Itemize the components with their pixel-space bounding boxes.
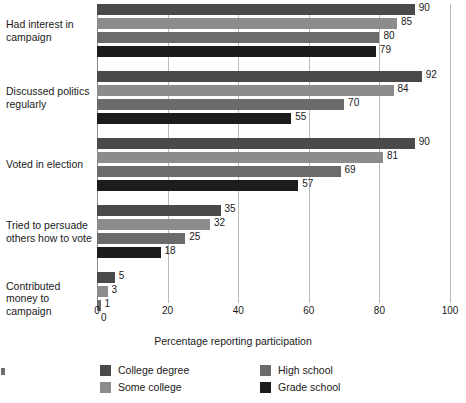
bar-row: 90 [97, 138, 450, 149]
bar-group: 90858079 [97, 4, 450, 57]
category-label-line: Discussed politics [6, 85, 94, 98]
bar [97, 46, 376, 57]
category-label: Tried to persuadeothers how to vote [6, 219, 94, 244]
bar-row: 32 [97, 219, 450, 230]
bar-value-label: 81 [387, 150, 398, 161]
bar-value-label: 90 [419, 2, 430, 13]
bar-value-label: 70 [348, 97, 359, 108]
bar-row: 81 [97, 152, 450, 163]
bar [97, 113, 291, 124]
category-label: Had interest incampaign [6, 18, 94, 43]
bar-value-label: 35 [225, 203, 236, 214]
bar-value-label: 55 [295, 111, 306, 122]
bar [97, 152, 383, 163]
scan-edge-artifact [1, 368, 5, 375]
bar-value-label: 3 [112, 284, 118, 295]
x-tick-label: 20 [162, 305, 173, 317]
bar-group: 35322518 [97, 205, 450, 258]
bar-value-label: 92 [426, 69, 437, 80]
legend-item: High school [260, 364, 333, 376]
bar [97, 71, 422, 82]
bar-row: 35 [97, 205, 450, 216]
bar-row: 70 [97, 99, 450, 110]
bar-value-label: 79 [380, 44, 391, 55]
legend-item: Grade school [260, 381, 340, 393]
x-tick-label: 0 [94, 305, 100, 317]
bar-row: 90 [97, 4, 450, 15]
x-tick-label: 100 [442, 305, 459, 317]
legend-swatch [260, 365, 271, 376]
chart-legend: College degreeSome collegeHigh schoolGra… [100, 364, 430, 396]
category-label-line: Contributed [6, 280, 94, 293]
bar-row: 69 [97, 166, 450, 177]
bar-row: 85 [97, 18, 450, 29]
bar-row: 57 [97, 180, 450, 191]
bar-value-label: 5 [119, 270, 125, 281]
bar-row: 3 [97, 286, 450, 297]
gridline-100 [450, 4, 451, 303]
bar-value-label: 90 [419, 136, 430, 147]
legend-item: Some college [100, 381, 182, 393]
bar-chart: Had interest incampaignDiscussed politic… [0, 0, 466, 403]
category-label: Contributedmoney tocampaign [6, 280, 94, 318]
bar-groups: 908580799284705590816957353225185310 [97, 4, 450, 303]
legend-swatch [100, 382, 111, 393]
category-label-line: campaign [6, 305, 94, 318]
category-label-line: others how to vote [6, 232, 94, 245]
bar-row: 55 [97, 113, 450, 124]
bar [97, 166, 341, 177]
category-label-line: Voted in election [6, 158, 94, 171]
legend-item: College degree [100, 364, 189, 376]
category-label-line: campaign [6, 31, 94, 44]
legend-swatch [100, 365, 111, 376]
category-axis: Had interest incampaignDiscussed politic… [0, 4, 92, 303]
bar-value-label: 57 [302, 178, 313, 189]
bar-value-label: 80 [383, 30, 394, 41]
legend-swatch [260, 382, 271, 393]
bar [97, 4, 415, 15]
category-label-line: Had interest in [6, 18, 94, 31]
bar-row: 84 [97, 85, 450, 96]
x-tick-label: 80 [374, 305, 385, 317]
x-tick-label: 60 [303, 305, 314, 317]
bar-row: 92 [97, 71, 450, 82]
bar-group: 92847055 [97, 71, 450, 124]
bar-row: 18 [97, 247, 450, 258]
bar [97, 180, 298, 191]
legend-label: College degree [118, 364, 189, 376]
category-label: Discussed politicsregularly [6, 85, 94, 110]
bar-value-label: 32 [214, 217, 225, 228]
bar [97, 18, 397, 29]
bar [97, 32, 379, 43]
category-label-line: Tried to persuade [6, 219, 94, 232]
bar-value-label: 25 [189, 231, 200, 242]
category-label-line: regularly [6, 98, 94, 111]
x-axis-title: Percentage reporting participation [0, 335, 466, 347]
category-label-line: money to [6, 292, 94, 305]
legend-label: Some college [118, 381, 182, 393]
bar [97, 286, 108, 297]
bar-value-label: 85 [401, 16, 412, 27]
x-tick-label: 40 [233, 305, 244, 317]
bar-row: 5 [97, 272, 450, 283]
bar-row: 79 [97, 46, 450, 57]
bar [97, 85, 394, 96]
bar [97, 233, 185, 244]
x-axis-ticks: 020406080100 [97, 305, 450, 321]
bar [97, 138, 415, 149]
plot-area: 908580799284705590816957353225185310 [97, 4, 450, 303]
bar [97, 99, 344, 110]
bar [97, 205, 221, 216]
category-label: Voted in election [6, 158, 94, 171]
legend-label: Grade school [278, 381, 340, 393]
bar-row: 25 [97, 233, 450, 244]
bar [97, 272, 115, 283]
bar-group: 90816957 [97, 138, 450, 191]
bar-row: 80 [97, 32, 450, 43]
legend-label: High school [278, 364, 333, 376]
bar [97, 247, 161, 258]
bar-value-label: 84 [398, 83, 409, 94]
bar-value-label: 69 [345, 164, 356, 175]
bar [97, 219, 210, 230]
bar-value-label: 18 [165, 245, 176, 256]
